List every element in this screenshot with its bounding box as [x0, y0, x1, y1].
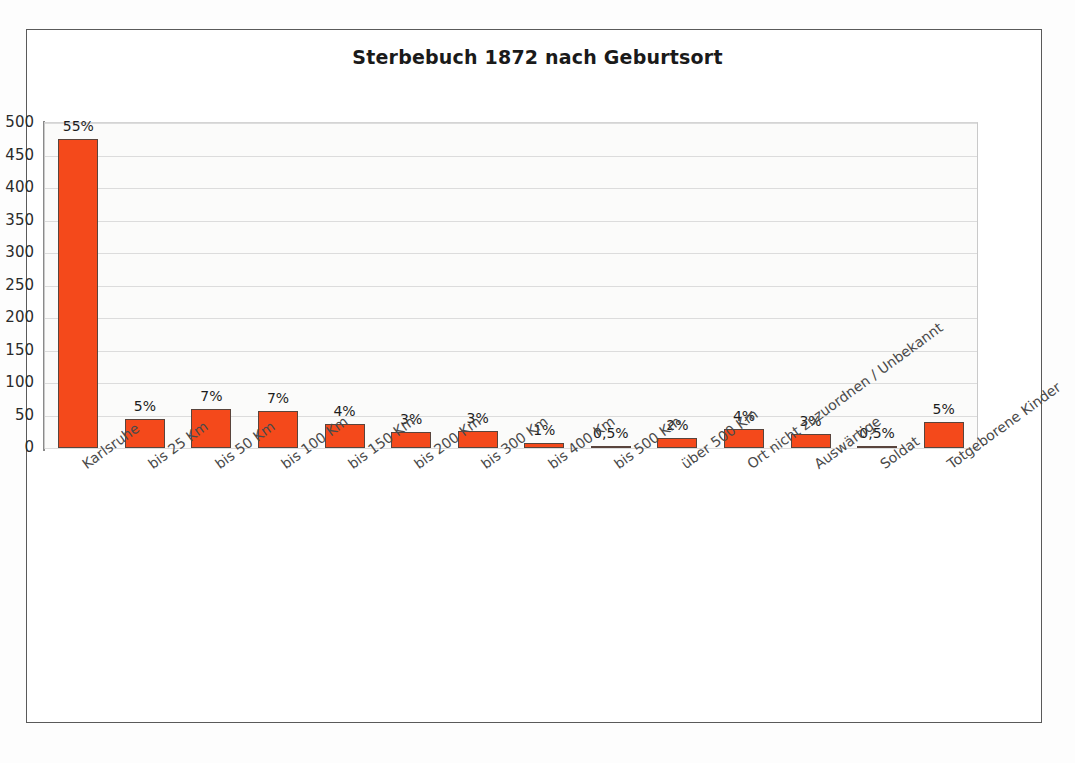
bar-slot: 0,5%	[578, 123, 645, 448]
y-axis-tick-label: 350	[5, 211, 34, 229]
bar-value-label: 5%	[134, 398, 156, 414]
chart-title: Sterbebuch 1872 nach Geburtsort	[0, 46, 1075, 68]
bar-slot: 2%	[644, 123, 711, 448]
bar-slot: 5%	[112, 123, 179, 448]
y-axis-tick-label: 500	[5, 113, 34, 131]
y-axis-tick-label: 250	[5, 276, 34, 294]
y-axis-tick-label: 400	[5, 178, 34, 196]
bar-slot: 3%	[378, 123, 445, 448]
y-axis-tick-label: 450	[5, 146, 34, 164]
x-axis-category-labels: Karlsruhebis 25 Kmbis 50 Kmbis 100 Kmbis…	[44, 449, 978, 709]
bar-slot: 3%	[444, 123, 511, 448]
bar-slot: 4%	[711, 123, 778, 448]
y-axis-tick-label: 50	[15, 406, 34, 424]
y-axis-tick-label: 150	[5, 341, 34, 359]
bar-slot: 1%	[511, 123, 578, 448]
bar-value-label: 5%	[933, 401, 955, 417]
bar-slot: 0,5%	[844, 123, 911, 448]
bar-slot: 55%	[45, 123, 112, 448]
bar-slot: 4%	[311, 123, 378, 448]
y-axis-tick-label: 300	[5, 243, 34, 261]
bar-slot: 7%	[245, 123, 312, 448]
y-axis: 050100150200250300350400450500	[0, 122, 40, 449]
y-axis-tick-label: 200	[5, 308, 34, 326]
bar[interactable]	[58, 139, 98, 448]
y-axis-tick-label: 0	[24, 438, 34, 456]
bar-slot: 5%	[910, 123, 977, 448]
bar[interactable]	[924, 422, 964, 448]
bar-slot: 7%	[178, 123, 245, 448]
bar[interactable]	[524, 443, 564, 448]
bar-value-label: 7%	[200, 388, 222, 404]
bar-value-label: 7%	[267, 390, 289, 406]
scanned-page: Sterbebuch 1872 nach Geburtsort 05010015…	[0, 0, 1075, 763]
y-axis-tick-label: 100	[5, 373, 34, 391]
bar-value-label: 55%	[63, 118, 94, 134]
